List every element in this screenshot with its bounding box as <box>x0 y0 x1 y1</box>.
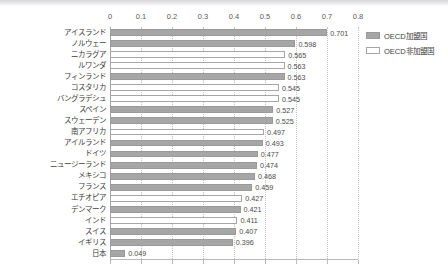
legend: OECD加盟国OECD非加盟国 <box>366 30 444 60</box>
legend-swatch-nonoecd <box>366 47 380 54</box>
chart-row: エチオピア0.427 <box>110 195 358 202</box>
bar-oecd[interactable] <box>110 73 285 80</box>
bar-nonoecd[interactable] <box>110 51 285 58</box>
category-label: 南アフリカ <box>71 128 110 136</box>
category-label: ドイツ <box>85 150 110 158</box>
bar-nonoecd[interactable] <box>110 195 242 202</box>
category-label: 日本 <box>92 250 110 258</box>
bar-oecd[interactable] <box>110 140 263 147</box>
x-axis-line <box>110 259 358 260</box>
chart-row: フィンランド0.563 <box>110 73 358 80</box>
chart-row: スウェーデン0.525 <box>110 117 358 124</box>
bar-value-label: 0.468 <box>255 172 276 181</box>
x-tick-label: 0.4 <box>229 12 239 21</box>
x-tick-mark <box>327 260 328 264</box>
x-tick-mark <box>141 260 142 264</box>
chart-row: コスタリカ0.545 <box>110 84 358 91</box>
bar-value-label: 0.411 <box>237 216 257 225</box>
legend-item-nonoecd[interactable]: OECD非加盟国 <box>366 45 444 56</box>
bar-value-label: 0.049 <box>125 249 146 258</box>
chart-row: ドイツ0.477 <box>110 151 358 158</box>
bar-nonoecd[interactable] <box>110 62 285 69</box>
plot-area: アイスランド0.701ノルウェー0.598ニカラグア0.565ルワンダ0.563… <box>110 27 358 259</box>
bar-value-label: 0.563 <box>285 72 306 81</box>
bar-value-label: 0.527 <box>273 105 294 114</box>
x-tick-label: 0.8 <box>353 12 363 21</box>
x-tick-mark <box>172 260 173 264</box>
bar-value-label: 0.427 <box>242 194 263 203</box>
x-tick-mark <box>358 260 359 264</box>
bar-oecd[interactable] <box>110 228 236 235</box>
chart-row: スペイン0.527 <box>110 106 358 113</box>
chart-row: 日本0.049 <box>110 250 358 257</box>
bar-value-label: 0.459 <box>252 183 273 192</box>
x-tick-label: 0.7 <box>322 12 332 21</box>
bar-value-label: 0.407 <box>236 227 257 236</box>
category-label: エチオピア <box>71 194 110 202</box>
x-tick-mark <box>234 260 235 264</box>
bar-value-label: 0.701 <box>327 28 348 37</box>
chart-row: バングラデシュ0.545 <box>110 95 358 102</box>
bar-nonoecd[interactable] <box>110 217 237 224</box>
category-label: フランス <box>78 183 110 191</box>
bar-oecd[interactable] <box>110 117 273 124</box>
chart-row: アイルランド0.493 <box>110 140 358 147</box>
x-tick-label: 0.5 <box>260 12 270 21</box>
bar-oecd[interactable] <box>110 151 258 158</box>
x-tick-label: 0.6 <box>291 12 301 21</box>
category-label: コスタリカ <box>71 84 110 92</box>
x-tick-mark <box>296 260 297 264</box>
chart-row: デンマーク0.421 <box>110 206 358 213</box>
x-tick-mark <box>265 260 266 264</box>
chart-row: ルワンダ0.563 <box>110 62 358 69</box>
category-label: バングラデシュ <box>57 95 110 103</box>
chart-row: ノルウェー0.598 <box>110 40 358 47</box>
category-label: スペイン <box>79 106 110 114</box>
bar-oecd[interactable] <box>110 173 255 180</box>
x-tick-label: 0 <box>108 12 112 21</box>
bar-value-label: 0.396 <box>233 238 254 247</box>
chart-row: アイスランド0.701 <box>110 29 358 36</box>
bar-value-label: 0.545 <box>279 83 300 92</box>
chart-row: イギリス0.396 <box>110 239 358 246</box>
bar-oecd[interactable] <box>110 206 241 213</box>
bar-value-label: 0.525 <box>273 116 294 125</box>
bar-value-label: 0.493 <box>263 138 284 147</box>
bar-oecd[interactable] <box>110 40 295 47</box>
x-tick-label: 0.1 <box>136 12 146 21</box>
chart-row: 南アフリカ0.497 <box>110 129 358 136</box>
legend-item-oecd[interactable]: OECD加盟国 <box>366 30 444 41</box>
bar-value-label: 0.474 <box>257 161 278 170</box>
category-label: アイスランド <box>64 29 110 37</box>
chart-row: インド0.411 <box>110 217 358 224</box>
category-label: スウェーデン <box>64 117 110 125</box>
category-label: ノルウェー <box>71 40 110 48</box>
bar-oecd[interactable] <box>110 184 252 191</box>
bar-value-label: 0.421 <box>241 205 262 214</box>
x-tick-mark <box>110 260 111 264</box>
category-label: デンマーク <box>71 206 110 214</box>
bar-oecd[interactable] <box>110 106 273 113</box>
bar-oecd[interactable] <box>110 162 257 169</box>
bar-oecd[interactable] <box>110 239 233 246</box>
bar-chart: 00.10.20.30.40.50.60.70.8 アイスランド0.701ノルウ… <box>0 0 448 273</box>
category-label: ニュージーランド <box>50 161 110 169</box>
category-label: ルワンダ <box>78 62 110 70</box>
bar-nonoecd[interactable] <box>110 129 264 136</box>
bar-oecd[interactable] <box>110 250 125 257</box>
bar-value-label: 0.497 <box>264 127 285 136</box>
chart-row: スイス0.407 <box>110 228 358 235</box>
bar-nonoecd[interactable] <box>110 95 279 102</box>
chart-row: ニュージーランド0.474 <box>110 162 358 169</box>
chart-row: フランス0.459 <box>110 184 358 191</box>
category-label: スイス <box>85 228 110 236</box>
x-tick-label: 0.2 <box>167 12 177 21</box>
bar-nonoecd[interactable] <box>110 84 279 91</box>
category-label: ニカラグア <box>71 51 110 59</box>
category-label: フィンランド <box>64 73 110 81</box>
category-label: インド <box>85 217 110 225</box>
bar-oecd[interactable] <box>110 29 327 36</box>
gridline <box>358 27 359 259</box>
chart-row: メキシコ0.468 <box>110 173 358 180</box>
category-label: アイルランド <box>64 139 110 147</box>
